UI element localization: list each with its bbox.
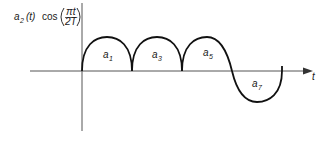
- segment-label-a5: a 5: [203, 47, 213, 60]
- svg-text:7: 7: [258, 84, 263, 91]
- segment-label-a7: a 7: [252, 78, 263, 91]
- left-paren: [61, 8, 64, 26]
- y-label-arg: (t): [26, 11, 35, 22]
- right-paren: [77, 8, 80, 26]
- waveform-diagram: a 2 (t) cos πt 2T a 1 a 3 a 5: [0, 0, 330, 146]
- segment-label-a1: a 1: [103, 49, 113, 62]
- y-label-prefix-sub: 2: [19, 17, 24, 24]
- segment-label-a3: a 3: [152, 49, 162, 62]
- x-axis-label: t: [312, 71, 316, 82]
- y-label-frac-den: 2T: [64, 16, 78, 27]
- y-label-func: cos: [42, 11, 58, 22]
- svg-text:5: 5: [209, 53, 213, 60]
- svg-text:3: 3: [158, 55, 162, 62]
- svg-text:1: 1: [109, 55, 113, 62]
- y-axis-label: a 2 (t) cos πt 2T: [14, 6, 80, 27]
